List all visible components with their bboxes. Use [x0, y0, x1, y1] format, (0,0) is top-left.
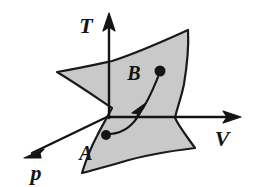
state-a-dot: [101, 130, 111, 140]
state-a-label: A: [77, 142, 92, 164]
state-b-label: B: [126, 62, 140, 84]
axis-label-temperature: T: [79, 13, 94, 38]
axis-arrow-down-left-icon: [24, 149, 44, 158]
figure-container: T V p A B: [0, 0, 255, 187]
axis-label-volume: V: [215, 126, 232, 151]
axis-label-pressure: p: [29, 160, 42, 185]
state-b-dot: [155, 66, 166, 77]
state-surface-shape: [57, 30, 195, 173]
state-surface-diagram: T V p A B: [0, 0, 255, 187]
